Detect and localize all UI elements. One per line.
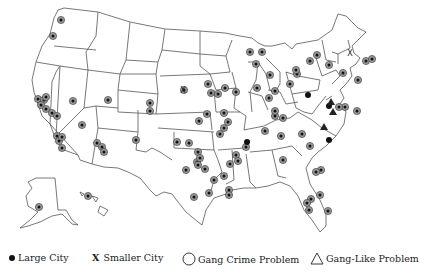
gang-crime-large-city-marker bbox=[232, 88, 239, 95]
gang-crime-large-city-marker bbox=[69, 97, 76, 104]
gang-crime-large-city-marker bbox=[207, 89, 214, 96]
gang-crime-large-city-marker bbox=[339, 69, 346, 76]
gang-crime-large-city-marker bbox=[324, 207, 331, 214]
gang-crime-large-city-marker bbox=[306, 57, 313, 64]
gang-crime-large-city-marker bbox=[57, 16, 64, 23]
gang-crime-large-city-marker bbox=[146, 99, 153, 106]
gang-crime-large-city-marker bbox=[258, 48, 265, 55]
circle-icon bbox=[182, 252, 196, 266]
gang-crime-large-city-marker bbox=[35, 203, 42, 210]
gang-crime-large-city-marker bbox=[298, 130, 305, 137]
large-city-marker bbox=[305, 92, 311, 98]
legend-gang-crime: Gang Crime Problem bbox=[182, 252, 299, 266]
gang-crime-large-city-marker bbox=[313, 51, 320, 58]
gang-crime-large-city-marker bbox=[210, 176, 217, 183]
gang-crime-large-city-marker bbox=[132, 136, 139, 143]
gang-crime-large-city-marker bbox=[58, 133, 65, 140]
gang-crime-large-city-marker bbox=[335, 103, 342, 110]
gang-crime-large-city-marker bbox=[204, 80, 211, 87]
legend-label-gang-like: Gang-Like Problem bbox=[326, 253, 419, 264]
gang-crime-large-city-marker bbox=[220, 109, 227, 116]
gang-crime-large-city-marker bbox=[84, 192, 91, 199]
gang-crime-large-city-marker bbox=[279, 156, 286, 163]
gang-crime-large-city-marker bbox=[266, 71, 273, 78]
legend-label-smaller-city: Smaller City bbox=[103, 252, 163, 263]
legend-label-gang-crime: Gang Crime Problem bbox=[198, 254, 299, 265]
filled-dot-icon bbox=[8, 254, 16, 262]
gang-crime-large-city-marker bbox=[49, 32, 56, 39]
gang-crime-large-city-marker bbox=[265, 94, 272, 101]
gang-crime-large-city-marker bbox=[100, 148, 107, 155]
gang-crime-large-city-marker bbox=[305, 206, 312, 213]
gang-crime-large-city-marker bbox=[234, 157, 241, 164]
smaller-city-marker: X bbox=[347, 49, 353, 58]
us-map: XX bbox=[0, 0, 428, 245]
gang-crime-large-city-marker bbox=[306, 142, 313, 149]
gang-crime-large-city-marker bbox=[225, 191, 232, 198]
gang-crime-large-city-marker bbox=[261, 127, 268, 134]
gang-crime-large-city-marker bbox=[368, 55, 375, 62]
gang-crime-large-city-marker bbox=[226, 160, 233, 167]
gang-crime-large-city-marker bbox=[325, 61, 332, 68]
legend-label-large-city: Large City bbox=[18, 252, 69, 263]
gang-crime-large-city-marker bbox=[78, 121, 85, 128]
gang-crime-large-city-marker bbox=[214, 90, 221, 97]
large-city-marker bbox=[244, 139, 250, 145]
gang-crime-large-city-marker bbox=[286, 80, 293, 87]
gang-crime-large-city-marker bbox=[195, 117, 202, 124]
gang-crime-large-city-marker bbox=[190, 193, 197, 200]
gang-crime-large-city-marker bbox=[196, 154, 203, 161]
legend-smaller-city: X Smaller City bbox=[92, 252, 163, 263]
gang-crime-large-city-marker bbox=[224, 118, 231, 125]
gang-crime-large-city-marker bbox=[316, 191, 323, 198]
x-mark-icon: X bbox=[92, 252, 99, 263]
smaller-city-marker: X bbox=[180, 86, 186, 95]
gang-crime-large-city-marker bbox=[303, 199, 310, 206]
gang-crime-large-city-marker bbox=[182, 166, 189, 173]
gang-crime-large-city-marker bbox=[354, 76, 361, 83]
triangle-icon bbox=[310, 252, 324, 265]
gang-crime-large-city-marker bbox=[205, 189, 212, 196]
gang-crime-large-city-marker bbox=[58, 144, 65, 151]
gang-crime-large-city-marker bbox=[277, 132, 284, 139]
large-city-marker bbox=[326, 137, 332, 143]
gang-crime-large-city-marker bbox=[279, 114, 286, 121]
gang-crime-large-city-marker bbox=[271, 107, 278, 114]
gang-crime-large-city-marker bbox=[253, 84, 260, 91]
gang-crime-large-city-marker bbox=[104, 96, 111, 103]
gang-crime-large-city-marker bbox=[185, 139, 192, 146]
gang-crime-large-city-marker bbox=[203, 110, 210, 117]
gang-crime-large-city-marker bbox=[220, 172, 227, 179]
gang-crime-large-city-marker bbox=[252, 60, 259, 67]
gang-crime-large-city-marker bbox=[194, 161, 201, 168]
gang-crime-large-city-marker bbox=[42, 93, 49, 100]
gang-crime-large-city-marker bbox=[246, 48, 253, 55]
gang-crime-large-city-marker bbox=[312, 168, 319, 175]
gang-crime-large-city-marker bbox=[271, 87, 278, 94]
gang-crime-large-city-marker bbox=[221, 84, 228, 91]
map-legend: Large City X Smaller City Gang Crime Pro… bbox=[0, 252, 428, 272]
gang-crime-large-city-marker bbox=[353, 107, 360, 114]
gang-crime-large-city-marker bbox=[292, 66, 299, 73]
gang-crime-large-city-marker bbox=[173, 138, 180, 145]
gang-crime-large-city-marker bbox=[201, 165, 208, 172]
gang-crime-large-city-marker bbox=[146, 107, 153, 114]
legend-gang-like: Gang-Like Problem bbox=[310, 252, 419, 265]
legend-large-city: Large City bbox=[8, 252, 69, 263]
gang-crime-large-city-marker bbox=[53, 112, 60, 119]
